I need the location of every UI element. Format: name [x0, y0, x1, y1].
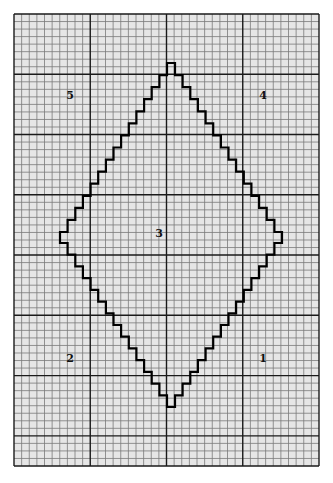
region-label-2: 2	[66, 352, 74, 365]
region-label-3: 3	[155, 227, 163, 240]
grid-diamond-figure: 1 2 3 4 5	[0, 0, 333, 483]
region-label-5: 5	[66, 89, 74, 102]
region-label-4: 4	[259, 89, 267, 102]
region-label-1: 1	[259, 352, 267, 365]
